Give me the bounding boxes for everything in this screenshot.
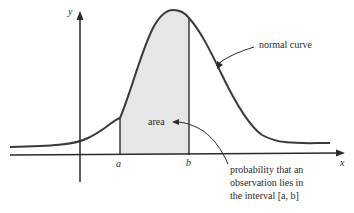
probability-note-line-3: the interval [a, b] [230, 189, 340, 202]
probability-note-line-1: probability that an [230, 163, 340, 176]
x-axis-arrow-icon [336, 150, 345, 157]
probability-note: probability that an observation lies in … [230, 163, 340, 202]
area-label: area [148, 116, 165, 127]
x-axis [10, 153, 340, 155]
probability-note-line-2: observation lies in [230, 176, 340, 189]
interval-upper-label: b [186, 157, 191, 168]
normal-curve-label: normal curve [259, 39, 312, 50]
x-axis-label: x [340, 157, 344, 168]
shaded-area [120, 10, 189, 155]
y-axis-arrow-icon [77, 11, 84, 20]
interval-lower-label: a [116, 158, 121, 169]
y-axis-label: y [68, 6, 72, 17]
curve-pointer [216, 47, 254, 66]
